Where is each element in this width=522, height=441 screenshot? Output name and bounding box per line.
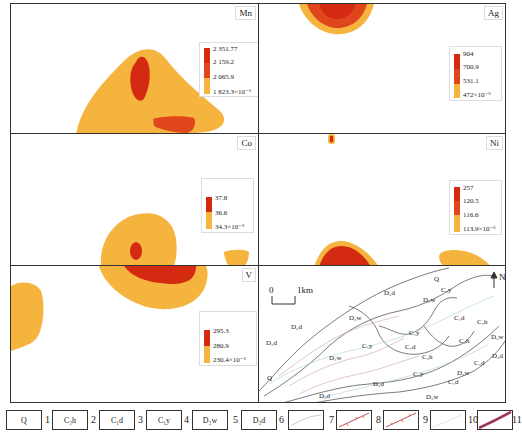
map-label: C₁d — [454, 314, 465, 322]
legend-line-fault-2 — [383, 410, 419, 430]
legend-num: 9 — [423, 414, 428, 425]
map-label: C₁y — [441, 286, 452, 294]
map-label: D₃d — [291, 323, 302, 331]
legend-num: 8 — [376, 414, 381, 425]
legend-box-c2h: C₂h — [52, 410, 88, 430]
purple-line-icon — [478, 411, 512, 429]
mn-legend-value: 2 351.77 — [213, 45, 238, 53]
map-label: D₃d — [492, 352, 503, 360]
co-legend-value: 36.6 — [215, 209, 227, 217]
legend-num: 11 — [512, 414, 522, 425]
v-anomaly-panel: 295.3 280.9 230.4×10⁻⁶ V — [10, 265, 259, 403]
mn-anomaly-panel: 2 351.77 2 159.2 2 065.9 1 823.3×10⁻⁶ Mn — [10, 3, 259, 134]
ag-legend-value: 531.1 — [463, 77, 479, 85]
legend-line-purple — [477, 410, 513, 430]
mn-legend-value: 1 823.3×10⁻⁶ — [213, 88, 251, 96]
legend-box-q: Q — [6, 410, 42, 430]
legend-line-faint — [430, 410, 466, 430]
co-legend-value: 34.3×10⁻⁶ — [215, 223, 244, 231]
legend-box-c1d: C₁d — [99, 410, 135, 430]
mn-element-label: Mn — [235, 6, 256, 20]
north-arrow-label: N — [499, 272, 506, 282]
legend-num: 3 — [138, 414, 143, 425]
co-legend: 37.8 36.6 34.3×10⁻⁶ — [201, 178, 254, 233]
co-legend-value: 37.8 — [215, 194, 227, 202]
map-label: C₂h — [422, 353, 433, 361]
scale-zero-label: 0 — [269, 285, 274, 295]
map-label: D₃d — [319, 392, 330, 400]
ag-legend-value: 472×10⁻⁹ — [463, 91, 491, 99]
legend-num: 7 — [329, 414, 334, 425]
legend-line-geologic-boundary — [288, 410, 324, 430]
map-label: D₃d — [373, 380, 384, 388]
mn-legend-value: 2 065.9 — [213, 73, 234, 81]
map-label: D₃w — [329, 354, 342, 362]
map-label: D₃d — [384, 289, 395, 297]
geologic-map-panel: 0 1km N D₃d Q C₁y D₃w D₃w D₃d C₁d C₂h C₁… — [258, 265, 506, 403]
legend-num: 4 — [184, 414, 189, 425]
ni-anomaly-panel: 257 120.5 116.6 113.9×10⁻⁶ Ni — [258, 133, 506, 266]
map-label: C₂h — [477, 318, 488, 326]
legend-box-c1y: C₁y — [146, 410, 182, 430]
v-legend: 295.3 280.9 230.4×10⁻⁶ — [199, 311, 257, 366]
legend-box-d3w: D₃w — [192, 410, 228, 430]
map-label: C₁y — [413, 370, 424, 378]
legend-line-fault-1 — [336, 410, 372, 430]
map-label: D₃d — [266, 339, 277, 347]
map-label: C₁d — [448, 378, 459, 386]
map-label: C₂h — [459, 337, 470, 345]
red-fault-line-icon — [384, 411, 418, 429]
ag-legend-value: 700.9 — [463, 63, 479, 71]
co-anomaly-panel: 37.8 36.6 34.3×10⁻⁶ Co — [10, 133, 259, 266]
gray-line-icon — [289, 411, 323, 429]
v-legend-value: 280.9 — [213, 342, 229, 350]
map-label: Q — [267, 374, 272, 382]
ag-legend: 904 700.9 531.1 472×10⁻⁹ — [449, 46, 502, 101]
ni-legend-value: 257 — [463, 184, 474, 192]
map-label: Q — [434, 275, 439, 283]
map-label: D₃w — [491, 333, 504, 341]
v-element-label: V — [242, 268, 257, 282]
map-label: D₃w — [349, 314, 362, 322]
ni-element-label: Ni — [486, 136, 503, 150]
ni-legend-value: 116.6 — [463, 211, 479, 219]
ni-legend-value: 120.5 — [463, 197, 479, 205]
map-label: D₃w — [457, 369, 470, 377]
scale-km-label: 1km — [297, 285, 313, 295]
ni-legend-value: 113.9×10⁻⁶ — [463, 225, 496, 233]
legend-num: 2 — [91, 414, 96, 425]
faint-line-icon — [431, 411, 465, 429]
co-element-label: Co — [237, 136, 256, 150]
ag-legend-value: 904 — [463, 50, 474, 58]
ni-legend: 257 120.5 116.6 113.9×10⁻⁶ — [449, 180, 502, 235]
map-label: C₁d — [474, 359, 485, 367]
map-label: D₃w — [423, 296, 436, 304]
legend-box-d3d: D₃d — [241, 410, 277, 430]
v-legend-value: 230.4×10⁻⁶ — [213, 356, 246, 364]
ag-anomaly-panel: 904 700.9 531.1 472×10⁻⁹ Ag — [258, 3, 506, 134]
legend-num: 6 — [279, 414, 284, 425]
v-legend-value: 295.3 — [213, 327, 229, 335]
mn-legend: 2 351.77 2 159.2 2 065.9 1 823.3×10⁻⁶ — [199, 42, 259, 97]
red-fault-line-icon — [337, 411, 371, 429]
map-label: C₁y — [362, 342, 373, 350]
map-label: D₃w — [426, 393, 439, 401]
map-label: C₁d — [405, 343, 416, 351]
map-label: C₁y — [409, 329, 420, 337]
mn-legend-value: 2 159.2 — [213, 58, 234, 66]
ag-element-label: Ag — [484, 6, 503, 20]
legend-num: 1 — [45, 414, 50, 425]
legend-num: 5 — [233, 414, 238, 425]
